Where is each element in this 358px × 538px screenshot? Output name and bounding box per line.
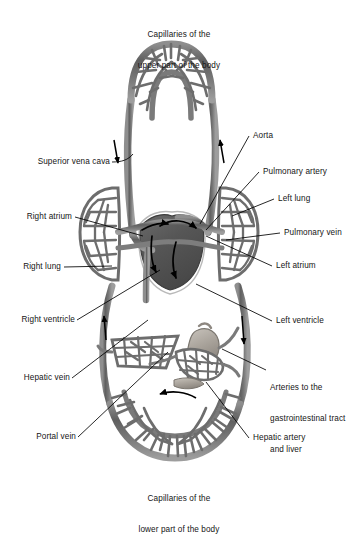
lower-arch-inner: [124, 392, 226, 436]
label-hepatic-artery: Hepatic artery: [253, 433, 333, 443]
flow-arrow-lower-bed: [160, 392, 196, 398]
label-left-atrium: Left atrium: [276, 261, 342, 271]
label-hepatic-vein: Hepatic vein: [8, 373, 70, 383]
label-gi-arteries: Arteries to the gastrointestinal tract a…: [270, 363, 356, 465]
flow-arrow-down-left: [114, 140, 118, 163]
ascending-aorta-vessel: [208, 100, 215, 232]
label-left-lung: Left lung: [278, 194, 338, 204]
label-upper-capillaries: Capillaries of the upper part of the bod…: [79, 10, 279, 81]
label-pulmonary-vein: Pulmonary vein: [284, 228, 358, 238]
flow-arrow-up-right: [220, 140, 224, 163]
label-portal-vein: Portal vein: [18, 432, 76, 442]
label-superior-vena-cava: Superior vena cava: [6, 157, 110, 167]
label-lower-capillaries: Capillaries of the lower part of the bod…: [79, 474, 279, 538]
left-lung-capillaries: [219, 188, 259, 280]
gi-arteries-vessel: [219, 328, 238, 348]
label-right-ventricle: Right ventricle: [4, 315, 75, 325]
lower-right-vessel: [238, 286, 247, 404]
leader-left-ventricle: [196, 284, 272, 321]
abdominal-organs: [98, 324, 239, 389]
lower-body-circuit: [103, 286, 248, 458]
label-aorta: Aorta: [253, 131, 313, 141]
inferior-vena-cava-vessel: [146, 250, 148, 300]
hepatic-artery-vessel: [222, 364, 239, 376]
esophagus: [199, 324, 211, 328]
label-pulmonary-artery: Pulmonary artery: [263, 167, 355, 177]
label-left-ventricle: Left ventricle: [276, 316, 346, 326]
superior-vena-cava-vessel: [128, 100, 133, 235]
label-right-lung: Right lung: [6, 262, 61, 272]
label-right-atrium: Right atrium: [6, 212, 72, 222]
